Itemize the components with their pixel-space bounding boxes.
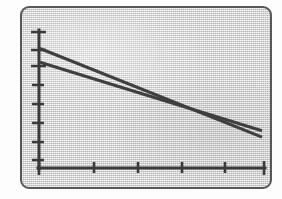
chart-axes <box>38 30 265 169</box>
chart-frame <box>20 6 272 189</box>
series-line-1 <box>40 48 262 137</box>
line-chart-plot <box>22 8 272 189</box>
scanned-figure-page <box>0 0 282 199</box>
series-line-2 <box>40 62 262 131</box>
chart-series <box>40 48 262 137</box>
